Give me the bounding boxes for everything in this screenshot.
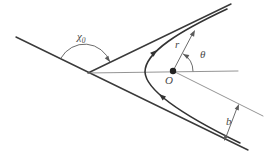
radius-vector-label: r [175, 38, 180, 50]
impact-parameter-reference-line [173, 71, 263, 116]
outgoing-asymptote-line [88, 4, 231, 73]
radius-vector-arrowhead-icon [190, 29, 197, 37]
incoming-asymptote-line [16, 37, 248, 150]
scattering-angle-label: χ0 [76, 30, 86, 45]
origin-label: O [165, 74, 173, 86]
scattering-diagram: χ0 r θ O b [0, 0, 272, 156]
scattering-angle-arc [61, 44, 110, 62]
theta-angle-label: θ [200, 48, 206, 60]
polar-axis-line [88, 71, 238, 73]
scattering-diagram-canvas: χ0 r θ O b [0, 0, 272, 156]
impact-parameter-label: b [226, 115, 232, 127]
